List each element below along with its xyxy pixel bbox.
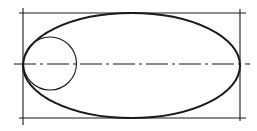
bounding-rectangle xyxy=(19,8,246,125)
ellipse-construction-diagram xyxy=(0,0,257,131)
ellipse xyxy=(23,13,240,118)
